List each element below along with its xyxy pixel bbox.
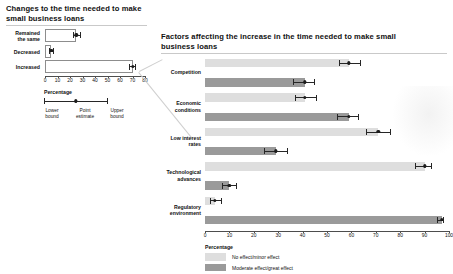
point-estimate-marker xyxy=(213,199,216,202)
error-bar-cap-lower xyxy=(415,163,416,169)
error-bar xyxy=(295,94,317,101)
error-bar xyxy=(437,217,444,224)
bar xyxy=(205,113,349,121)
point-estimate-marker xyxy=(347,61,350,64)
upper-bound-annotation: Upperbound xyxy=(102,108,132,119)
left-x-axis-ticks: 01020304050607080 xyxy=(45,78,145,86)
error-bar xyxy=(293,79,315,86)
error-bar-cap-lower xyxy=(293,79,294,85)
error-bar-cap-upper xyxy=(236,183,237,189)
right-axis-label: Percentage xyxy=(205,244,405,250)
error-bar xyxy=(222,182,237,189)
bar xyxy=(205,93,305,101)
error-bar-cap-upper xyxy=(431,163,432,169)
legend-label: No effect/minor effect xyxy=(232,254,279,260)
bar xyxy=(205,78,305,86)
left-category-label: Decreased xyxy=(14,49,40,55)
point-estimate-marker xyxy=(377,130,380,133)
error-bar-cap-upper xyxy=(53,48,54,54)
x-tick-label: 20 xyxy=(67,78,72,83)
error-bar-cap-lower xyxy=(366,129,367,135)
error-bar-cap-lower xyxy=(339,60,340,66)
bound-annotations: Lowerbound Pointestimate Upperbound xyxy=(42,108,152,122)
x-tick-label: 20 xyxy=(251,233,256,238)
x-tick-label: 70 xyxy=(373,233,378,238)
point-estimate-annotation: Pointestimate xyxy=(68,108,102,119)
right-legend: Percentage No effect/minor effectModerat… xyxy=(205,244,405,274)
x-tick-label: 100 xyxy=(445,233,453,238)
x-tick-label: 30 xyxy=(80,78,85,83)
error-bar xyxy=(129,63,137,70)
legend-swatch xyxy=(205,253,226,260)
left-category-label: Remainedthe same xyxy=(15,30,40,43)
x-tick-label: 10 xyxy=(55,78,60,83)
left-category-label: Increased xyxy=(16,64,40,70)
bar xyxy=(45,60,133,73)
error-bar-cap-lower xyxy=(129,64,130,70)
error-bar xyxy=(264,148,288,155)
right-category-label: Technologicaladvances xyxy=(167,169,202,182)
lower-bound-annotation: Lowerbound xyxy=(38,108,66,119)
right-x-axis-ticks: 0102030405060708090100 xyxy=(205,233,449,241)
x-tick-label: 90 xyxy=(422,233,427,238)
x-tick-label: 40 xyxy=(92,78,97,83)
x-tick-label: 40 xyxy=(300,233,305,238)
error-bar xyxy=(366,129,390,136)
right-category-label: Competition xyxy=(171,69,201,75)
error-bar-cap-upper xyxy=(135,64,136,70)
point-estimate-marker xyxy=(228,184,231,187)
bar xyxy=(205,59,349,67)
error-bar-cap-upper xyxy=(443,217,444,223)
error-bar-cap-lower xyxy=(73,32,74,38)
right-chart-title: Factors affecting the increase in the ti… xyxy=(161,32,401,51)
x-tick-label: 50 xyxy=(324,233,329,238)
bar xyxy=(205,162,425,170)
x-tick-label: 10 xyxy=(227,233,232,238)
x-tick-label: 0 xyxy=(204,233,207,238)
right-plot-area xyxy=(205,59,449,231)
point-estimate-marker xyxy=(75,33,78,36)
error-bar-cap-lower xyxy=(210,198,211,204)
right-title-divider xyxy=(161,53,447,54)
x-tick-label: 70 xyxy=(130,78,135,83)
error-bar xyxy=(415,163,432,170)
error-bar-cap-upper xyxy=(314,79,315,85)
right-category-labels: CompetitionEconomicconditionsLow interes… xyxy=(157,59,203,231)
legend-label: Moderate effect/great effect xyxy=(232,265,293,271)
x-tick-label: 60 xyxy=(349,233,354,238)
left-category-labels: Remainedthe sameDecreasedIncreased xyxy=(6,29,42,76)
error-bar-cap-lower xyxy=(264,148,265,154)
error-bar-cap-upper xyxy=(80,32,81,38)
error-bar-cap-upper xyxy=(358,114,359,120)
bar xyxy=(205,216,442,224)
legend-swatch xyxy=(205,264,226,271)
x-tick-label: 80 xyxy=(397,233,402,238)
x-tick-label: 50 xyxy=(105,78,110,83)
error-bar-cap-lower xyxy=(295,95,296,101)
x-tick-label: 0 xyxy=(44,78,47,83)
right-category-label: Economicconditions xyxy=(175,100,201,113)
left-legend: Percentage Lowerbound Pointestimate Uppe… xyxy=(44,89,144,98)
right-category-label: Low interestrates xyxy=(170,135,201,148)
point-estimate-marker xyxy=(274,149,277,152)
error-bar-cap-lower xyxy=(222,183,223,189)
left-chart-panel: Changes to the time needed to make small… xyxy=(6,4,154,124)
error-bar-cap-upper xyxy=(360,60,361,66)
left-chart-title: Changes to the time needed to make small… xyxy=(6,4,146,23)
right-category-label: Regulatoryenvironment xyxy=(170,204,201,217)
error-bar xyxy=(210,197,222,204)
bar xyxy=(205,128,378,136)
point-estimate-marker xyxy=(303,96,306,99)
error-bar xyxy=(73,32,82,39)
legend-item: Moderate effect/great effect xyxy=(205,264,405,272)
point-estimate-marker xyxy=(347,115,350,118)
right-chart-panel: Factors affecting the increase in the ti… xyxy=(161,32,451,260)
error-bar xyxy=(337,113,359,120)
point-estimate-marker xyxy=(303,80,306,83)
left-axis-label: Percentage xyxy=(44,89,144,95)
point-estimate-marker xyxy=(423,164,426,167)
error-bar xyxy=(49,48,54,55)
error-bar-cap-upper xyxy=(287,148,288,154)
error-bar-cap-lower xyxy=(437,217,438,223)
